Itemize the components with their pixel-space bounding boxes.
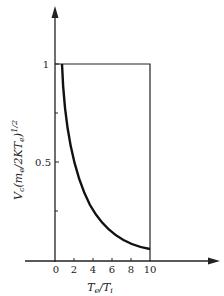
bounding-box [55,64,150,261]
x-axis-arrow-icon [208,258,220,265]
x-tick-label-2: 2 [71,264,77,275]
x-tick-label-8: 8 [128,264,134,275]
y-tick-label-05: 0.5 [35,157,51,168]
x-tick-label-6: 6 [109,264,115,275]
y-axis-label: Vc(me/2KTe)1/2 [10,120,26,200]
svg-text:Vc(me/2KTe)1/2: Vc(me/2KTe)1/2 [10,120,26,200]
x-tick-label-4: 4 [90,264,96,275]
data-curve [62,64,150,249]
x-tick-label-0: 0 [53,264,59,275]
y-tick-label-1: 1 [43,59,49,70]
y-axis-arrow-icon [52,6,59,18]
x-tick-label-10: 10 [144,264,157,275]
chart: 1 0.5 0 2 4 6 8 10 Te/Ti Vc(me/2KTe)1/2 [0,0,224,296]
x-axis-label: Te/Ti [87,281,113,295]
